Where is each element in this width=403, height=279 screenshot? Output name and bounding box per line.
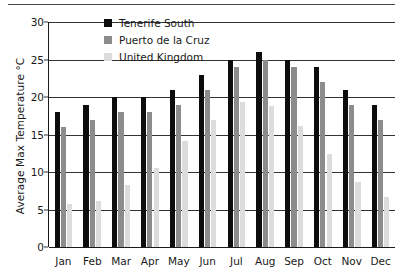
- y-tick-mark-20: [44, 97, 48, 98]
- y-tick-mark-30: [44, 22, 48, 23]
- y-tick-label-5: 5: [37, 204, 44, 216]
- bar-feb-series-1[interactable]: [90, 120, 95, 248]
- legend-label-tenerife-south: Tenerife South: [119, 17, 194, 29]
- x-tick-label-jul: Jul: [230, 255, 243, 267]
- y-tick-mark-5: [44, 209, 48, 210]
- x-tick-label-sep: Sep: [284, 255, 304, 267]
- bar-feb-series-2[interactable]: [96, 201, 101, 248]
- y-tick-label-30: 30: [31, 16, 44, 28]
- bar-mar-series-2[interactable]: [125, 185, 130, 247]
- bar-jan-series-0[interactable]: [55, 112, 60, 247]
- bar-jul-series-1[interactable]: [234, 67, 239, 247]
- bar-jun-series-2[interactable]: [211, 120, 216, 247]
- bar-jun-series-0[interactable]: [199, 75, 204, 248]
- bar-jul-series-0[interactable]: [228, 60, 233, 248]
- bar-sep-series-0[interactable]: [285, 60, 290, 248]
- bar-sep-series-1[interactable]: [291, 67, 296, 247]
- bar-jan-series-2[interactable]: [67, 204, 72, 247]
- bar-apr-series-1[interactable]: [147, 112, 152, 247]
- y-tick-label-25: 25: [31, 54, 44, 66]
- y-tick-label-20: 20: [31, 91, 44, 103]
- legend-label-united-kingdom: United Kingdom: [119, 51, 203, 63]
- x-tick-label-apr: Apr: [141, 255, 159, 267]
- bar-group-oct: [314, 22, 332, 247]
- y-axis-title: Average Max Temperature °C: [14, 21, 26, 251]
- x-tick-label-nov: Nov: [342, 255, 363, 267]
- bar-chart-figure: Average Max Temperature °C 051015202530 …: [0, 0, 403, 279]
- x-tick-label-mar: Mar: [111, 255, 131, 267]
- legend-entry-united-kingdom[interactable]: United Kingdom: [104, 48, 234, 65]
- x-tick-label-dec: Dec: [370, 255, 390, 267]
- x-tick-label-aug: Aug: [255, 255, 276, 267]
- bar-group-sep: [285, 22, 303, 247]
- chart-legend: Tenerife SouthPuerto de la CruzUnited Ki…: [104, 14, 234, 65]
- bar-aug-series-1[interactable]: [263, 60, 268, 248]
- bar-group-aug: [256, 22, 274, 247]
- y-tick-mark-0: [44, 247, 48, 248]
- x-tick-label-jan: Jan: [55, 255, 71, 267]
- legend-swatch-puerto-de-la-cruz-icon: [104, 36, 112, 44]
- bar-sep-series-2[interactable]: [298, 126, 303, 247]
- legend-entry-puerto-de-la-cruz[interactable]: Puerto de la Cruz: [104, 31, 234, 48]
- bar-group-nov: [343, 22, 361, 247]
- bar-oct-series-2[interactable]: [327, 154, 332, 247]
- y-tick-mark-10: [44, 172, 48, 173]
- legend-swatch-tenerife-south-icon: [104, 19, 112, 27]
- bar-aug-series-2[interactable]: [269, 106, 274, 247]
- bar-apr-series-0[interactable]: [141, 97, 146, 247]
- bar-may-series-1[interactable]: [176, 105, 181, 248]
- bar-nov-series-0[interactable]: [343, 90, 348, 248]
- bar-jun-series-1[interactable]: [205, 90, 210, 248]
- bar-group-dec: [372, 22, 390, 247]
- legend-swatch-united-kingdom-icon: [104, 53, 112, 61]
- bar-mar-series-1[interactable]: [118, 112, 123, 247]
- y-tick-label-15: 15: [31, 129, 44, 141]
- x-tick-label-oct: Oct: [314, 255, 332, 267]
- bar-feb-series-0[interactable]: [83, 105, 88, 248]
- y-tick-mark-25: [44, 59, 48, 60]
- x-tick-label-may: May: [168, 255, 190, 267]
- y-tick-label-10: 10: [31, 166, 44, 178]
- x-tick-label-feb: Feb: [83, 255, 102, 267]
- bar-jan-series-1[interactable]: [61, 127, 66, 247]
- bar-mar-series-0[interactable]: [112, 97, 117, 247]
- legend-label-puerto-de-la-cruz: Puerto de la Cruz: [119, 34, 209, 46]
- bar-aug-series-0[interactable]: [256, 52, 261, 247]
- bar-oct-series-0[interactable]: [314, 67, 319, 247]
- legend-entry-tenerife-south[interactable]: Tenerife South: [104, 14, 234, 31]
- bar-oct-series-1[interactable]: [320, 82, 325, 247]
- bar-may-series-0[interactable]: [170, 90, 175, 248]
- bar-dec-series-0[interactable]: [372, 105, 377, 248]
- bar-nov-series-1[interactable]: [349, 105, 354, 248]
- bar-apr-series-2[interactable]: [154, 168, 159, 247]
- bar-nov-series-2[interactable]: [355, 182, 360, 247]
- gridline-0: [49, 247, 395, 248]
- y-tick-label-0: 0: [37, 241, 44, 253]
- bar-group-feb: [83, 22, 101, 247]
- y-tick-mark-15: [44, 134, 48, 135]
- bar-dec-series-2[interactable]: [384, 197, 389, 247]
- bar-may-series-2[interactable]: [182, 141, 187, 248]
- bar-dec-series-1[interactable]: [378, 120, 383, 248]
- bar-group-jan: [55, 22, 73, 247]
- x-tick-label-jun: Jun: [199, 255, 215, 267]
- bar-jul-series-2[interactable]: [240, 102, 245, 247]
